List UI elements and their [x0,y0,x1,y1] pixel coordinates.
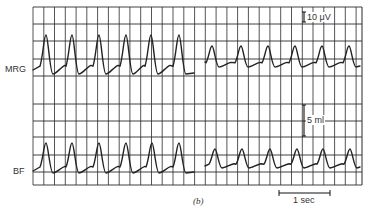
chart-grid [33,7,362,185]
time-scale-label: 1 sec [293,195,315,205]
figure-caption: (b) [193,196,204,206]
recording-figure [0,0,367,210]
trace-label-bf: BF [13,166,25,176]
volume-scale-label: 5 ml [306,115,325,125]
amplitude-scale-label: 10 μV [306,12,332,22]
trace-label-mrg: MRG [5,64,26,74]
